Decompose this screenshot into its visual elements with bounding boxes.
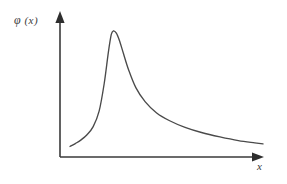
plot-canvas: [0, 0, 287, 184]
x-axis-label: x: [257, 161, 262, 172]
figure-container: φ (x) x: [0, 0, 287, 184]
phi-argument: (x): [24, 14, 38, 26]
y-axis-arrowhead-icon: [55, 11, 64, 23]
phi-curve: [70, 31, 263, 147]
y-axis-label: φ (x): [14, 14, 38, 26]
